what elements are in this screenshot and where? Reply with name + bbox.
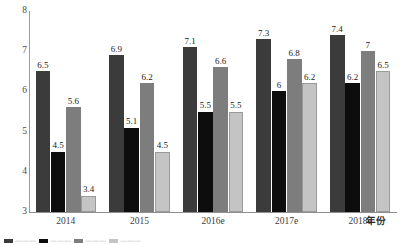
bar xyxy=(109,55,124,212)
bar-value-label: 6.8 xyxy=(285,49,304,58)
bar xyxy=(198,112,213,213)
x-axis-line xyxy=(29,212,397,213)
bar-value-label: 4.5 xyxy=(153,141,172,150)
legend-entry: ——— xyxy=(74,237,106,245)
bar-value-label: 6.2 xyxy=(138,73,157,82)
bar xyxy=(256,39,271,212)
bar xyxy=(213,67,228,212)
x-tick-label: 2017e xyxy=(250,216,324,227)
bar-value-label: 7 xyxy=(359,41,378,50)
bar xyxy=(302,83,317,212)
bar-chart: 345678 6.54.55.63.46.95.16.24.57.15.56.6… xyxy=(0,0,410,245)
bar xyxy=(183,47,198,212)
y-tick-label: 8 xyxy=(5,6,27,16)
bar xyxy=(229,112,244,213)
bar-value-label: 6 xyxy=(270,81,289,90)
bar-value-label: 6.5 xyxy=(374,61,393,70)
legend-label: ——— xyxy=(85,238,106,245)
y-tick-label: 4 xyxy=(5,167,27,177)
bar xyxy=(287,59,302,212)
y-tick-label: 5 xyxy=(5,127,27,137)
bar-group: 6.54.55.63.4 xyxy=(29,11,103,212)
legend-entry: ——— xyxy=(109,237,141,245)
bar-value-label: 5.5 xyxy=(196,101,215,110)
legend-label: ——— xyxy=(120,238,141,245)
bar-value-label: 5.6 xyxy=(64,97,83,106)
bar-value-label: 6.6 xyxy=(211,57,230,66)
legend-swatch xyxy=(109,239,118,243)
legend-label: ——— xyxy=(50,238,71,245)
legend-swatch xyxy=(39,239,48,243)
legend-entry: ——— xyxy=(39,237,71,245)
chart-legend: ———————————— xyxy=(4,237,141,245)
plot-area: 6.54.55.63.46.95.16.24.57.15.56.65.57.36… xyxy=(29,11,397,212)
bar xyxy=(361,51,376,212)
bar-value-label: 7.3 xyxy=(254,29,273,38)
bar-value-label: 6.2 xyxy=(300,73,319,82)
x-tick-label: 2016e xyxy=(176,216,250,227)
bar-value-label: 7.1 xyxy=(181,37,200,46)
bar xyxy=(66,107,81,212)
bar xyxy=(51,152,66,212)
bar xyxy=(124,128,139,212)
bar-value-label: 5.5 xyxy=(227,101,246,110)
y-tick-label: 6 xyxy=(5,86,27,96)
x-tick-label: 2014 xyxy=(29,216,103,227)
bar-value-label: 4.5 xyxy=(49,141,68,150)
legend-label: ——— xyxy=(15,238,36,245)
bar xyxy=(81,196,96,212)
bar xyxy=(330,35,345,212)
x-tick-label: 2015 xyxy=(103,216,177,227)
bar-value-label: 6.9 xyxy=(107,45,126,54)
legend-entry: ——— xyxy=(4,237,36,245)
bar-group: 7.366.86.2 xyxy=(250,11,324,212)
bar-group: 7.46.276.5 xyxy=(323,11,397,212)
bar-value-label: 6.2 xyxy=(343,73,362,82)
legend-swatch xyxy=(4,239,13,243)
bar xyxy=(376,71,391,212)
bar xyxy=(272,91,287,212)
bar-value-label: 6.5 xyxy=(34,61,53,70)
bar-value-label: 5.1 xyxy=(122,117,141,126)
bar-group: 7.15.56.65.5 xyxy=(176,11,250,212)
y-axis-tick-labels: 345678 xyxy=(0,0,27,245)
bar xyxy=(155,152,170,212)
bar-value-label: 7.4 xyxy=(328,25,347,34)
y-tick-label: 7 xyxy=(5,46,27,56)
bar-value-label: 3.4 xyxy=(79,185,98,194)
bar xyxy=(345,83,360,212)
bar-group: 6.95.16.24.5 xyxy=(103,11,177,212)
legend-swatch xyxy=(74,239,83,243)
y-tick-label: 3 xyxy=(5,207,27,217)
x-axis-title: 年份 xyxy=(366,215,386,226)
